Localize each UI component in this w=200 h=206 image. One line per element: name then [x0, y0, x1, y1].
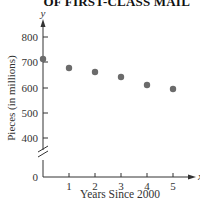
data-point: [66, 65, 72, 71]
y-axis-arrow-icon: [41, 19, 46, 27]
ytick-label: 800: [22, 31, 39, 43]
data-point: [144, 82, 150, 88]
ytick-label: 700: [22, 56, 39, 68]
x-ticks: [69, 173, 173, 177]
ytick-label: 600: [22, 82, 39, 94]
ytick-label: 500: [22, 107, 39, 119]
y-ticks: [43, 37, 48, 138]
y-axis-symbol: y: [40, 7, 46, 19]
ytick-label: 0: [33, 171, 39, 183]
scatter-plot: 800 700 600 500 400 0 1 2 3 4 5 y x: [0, 0, 200, 206]
y-axis-label: Pieces (in millions): [5, 53, 17, 143]
axis-break-mark: [38, 151, 48, 157]
data-series: [40, 56, 176, 92]
ytick-label: 400: [22, 132, 39, 144]
x-axis-arrow-icon: [188, 175, 196, 180]
data-point: [118, 74, 124, 80]
data-point: [170, 86, 176, 92]
data-point: [92, 69, 98, 75]
x-axis-symbol: x: [197, 170, 200, 182]
x-axis-label: Years Since 2000: [60, 188, 180, 200]
data-point: [40, 56, 46, 62]
